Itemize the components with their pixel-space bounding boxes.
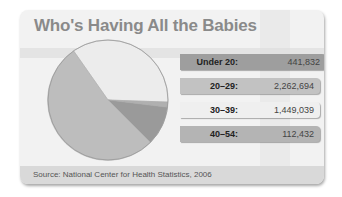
legend-row-40-54: 40–54: 112,432: [180, 126, 320, 142]
legend-value: 2,262,694: [274, 81, 314, 91]
legend-label: 40–54:: [180, 129, 238, 139]
legend-value: 441,832: [287, 57, 320, 67]
legend-row-30-39: 30–39: 1,449,039: [180, 102, 320, 118]
legend-row-under-20: Under 20: 441,832: [180, 54, 324, 70]
legend-value: 112,432: [282, 129, 314, 139]
legend-label: 30–39:: [180, 105, 238, 115]
chart-card: Who's Having All the Babies Under 20: 44…: [20, 10, 324, 184]
source-note: Source: National Center for Health Stati…: [20, 166, 324, 184]
legend-label: 20–29:: [180, 81, 238, 91]
legend-row-20-29: 20–29: 2,262,694: [180, 78, 320, 94]
decorative-band: [260, 10, 290, 184]
pie-chart: [38, 30, 178, 170]
legend-value: 1,449,039: [274, 105, 314, 115]
legend-label: Under 20:: [180, 57, 238, 67]
